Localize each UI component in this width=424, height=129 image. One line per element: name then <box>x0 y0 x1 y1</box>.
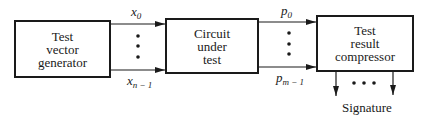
label-p0: p0 <box>281 3 292 20</box>
vdot-5 <box>287 42 291 46</box>
signature-label: Signature <box>342 100 392 116</box>
vdot-4 <box>287 31 291 35</box>
block-line: vector <box>38 43 87 56</box>
vdot-1 <box>136 34 140 38</box>
vdot-6 <box>287 52 291 56</box>
block-line: Test <box>38 30 87 43</box>
block-line: generator <box>38 56 87 69</box>
hdot-2 <box>362 81 366 85</box>
vdot-2 <box>136 44 140 48</box>
label-x0: x0 <box>131 4 141 21</box>
hdot-3 <box>372 81 376 85</box>
block-line: test <box>194 53 230 66</box>
block-test-result-compressor: Test result compressor <box>316 15 414 72</box>
hdot-1 <box>352 81 356 85</box>
vdot-3 <box>136 55 140 59</box>
block-line: Circuit <box>194 27 230 40</box>
block-circuit-under-test: Circuit under test <box>165 18 259 74</box>
block-line: under <box>194 40 230 53</box>
block-line: compressor <box>335 50 395 63</box>
label-pm-1: pm − 1 <box>276 70 304 87</box>
label-xn-1: xn − 1 <box>127 73 152 90</box>
block-test-vector-generator: Test vector generator <box>14 20 111 78</box>
